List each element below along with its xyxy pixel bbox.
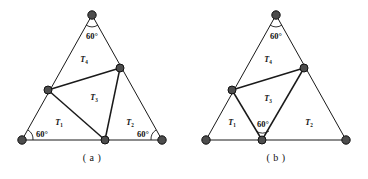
angle-label-inner-bottom-b: 60° — [257, 119, 269, 129]
caption-b: ( b ) — [184, 152, 368, 163]
region-label-center-a: T3 — [90, 93, 98, 103]
panel-b: 60° 60° T4 T3 T1 T2 — [184, 0, 368, 179]
caption-a: ( a ) — [0, 152, 184, 163]
region-label-top-b: T4 — [264, 55, 272, 65]
inner-network-b — [232, 68, 304, 140]
angle-label-bottom-left-a: 60° — [36, 129, 48, 139]
region-label-lower-left-b: T1 — [228, 118, 236, 128]
angle-arcs-a — [28, 25, 156, 140]
region-label-lower-right-b: T2 — [305, 118, 313, 128]
panel-a: 60° 60° 60° T4 T3 T1 T2 — [0, 0, 184, 179]
region-label-center-b: T3 — [264, 94, 272, 104]
figure-root: 60° 60° 60° T4 T3 T1 T2 — [0, 0, 368, 179]
angle-label-apex-a: 60° — [86, 31, 98, 41]
region-label-top-a: T4 — [80, 55, 88, 65]
angle-label-apex-b: 60° — [270, 31, 282, 41]
region-label-lower-left-a: T1 — [55, 118, 63, 128]
inner-network-a — [48, 68, 120, 140]
angle-label-bottom-right-a: 60° — [137, 129, 149, 139]
region-label-lower-right-a: T2 — [126, 118, 134, 128]
